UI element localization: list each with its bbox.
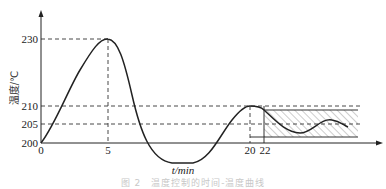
- y-tick-200: 200: [22, 137, 39, 149]
- temperature-curve: [41, 39, 348, 163]
- x-axis-label: t/min: [172, 164, 195, 176]
- y-tick-205: 205: [22, 118, 39, 130]
- x-axis-arrow-icon: [376, 141, 383, 146]
- x-tick-20: 20: [245, 144, 257, 156]
- x-tick-22: 22: [260, 144, 271, 156]
- y-tick-210: 210: [22, 100, 39, 112]
- y-axis-arrow-icon: [39, 10, 44, 17]
- y-tick-230: 230: [22, 33, 39, 45]
- x-tick-0: 0: [38, 144, 44, 156]
- temperature-time-chart: 230 210 205 200 0 5 20 22 温度/℃ t/min: [0, 0, 386, 189]
- x-tick-5: 5: [105, 144, 111, 156]
- figure-caption: 图 2 温度控制的时间-温度曲线: [0, 176, 386, 189]
- y-axis-label: 温度/℃: [8, 71, 20, 106]
